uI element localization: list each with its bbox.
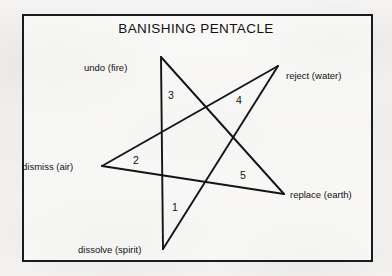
page-title: BANISHING PENTACLE bbox=[0, 21, 392, 36]
segment-4-line bbox=[161, 57, 284, 194]
segment-number-3: 3 bbox=[168, 90, 174, 101]
vertex-label-fire: undo (fire) bbox=[84, 63, 127, 73]
vertex-label-air: dismiss (air) bbox=[22, 162, 73, 172]
segment-number-2: 2 bbox=[133, 155, 139, 166]
pentacle-diagram bbox=[0, 0, 392, 276]
segment-2-line bbox=[102, 66, 278, 166]
segment-number-4: 4 bbox=[236, 95, 242, 106]
vertex-label-water: reject (water) bbox=[286, 71, 341, 81]
vertex-label-spirit: dissolve (spirit) bbox=[78, 245, 141, 255]
vertex-label-earth: replace (earth) bbox=[290, 190, 352, 200]
pentacle-star-path bbox=[102, 57, 284, 249]
segment-3-line bbox=[161, 57, 163, 249]
segment-number-5: 5 bbox=[240, 170, 246, 181]
segment-1-line bbox=[163, 66, 278, 249]
segment-5-line bbox=[102, 166, 284, 194]
segment-number-1: 1 bbox=[172, 202, 178, 213]
